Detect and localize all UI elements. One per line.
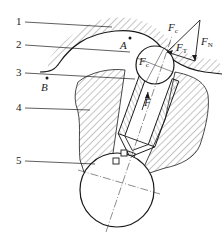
label-force-fc-inner: Fc	[139, 56, 149, 69]
label-force-f: F	[144, 97, 151, 108]
label-part-3: 3	[16, 67, 22, 78]
force-fc-inner-sub: c	[146, 61, 149, 69]
label-part-5: 5	[16, 155, 22, 166]
label-point-a: A	[120, 40, 127, 51]
force-fc-inner-main: F	[139, 55, 146, 67]
point-b-marker	[46, 77, 49, 80]
label-force-fn: FN	[201, 36, 213, 49]
track-upper	[40, 18, 222, 74]
label-force-ft: FT	[176, 42, 187, 55]
label-part-1: 1	[16, 16, 22, 27]
label-point-b: B	[41, 82, 48, 93]
force-ft-main: F	[176, 41, 183, 53]
label-part-4: 4	[16, 102, 22, 113]
force-fc-outer-main: F	[168, 21, 175, 33]
mechanism-diagram	[0, 0, 224, 234]
force-fc-outer-sub: c	[175, 27, 178, 35]
label-force-fc-outer: Fc	[168, 22, 178, 35]
point-a-marker	[129, 37, 132, 40]
force-ft-sub: T	[183, 47, 187, 55]
label-part-2: 2	[16, 39, 22, 50]
force-fn-main: F	[201, 35, 208, 47]
force-fn-sub: N	[208, 41, 213, 49]
